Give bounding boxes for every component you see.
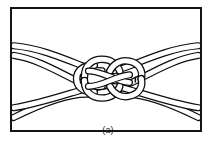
figure-container: (a) xyxy=(0,0,216,142)
figure-frame-border xyxy=(10,7,202,132)
figure-caption: (a) xyxy=(0,125,216,135)
knot-illustration xyxy=(12,9,200,130)
